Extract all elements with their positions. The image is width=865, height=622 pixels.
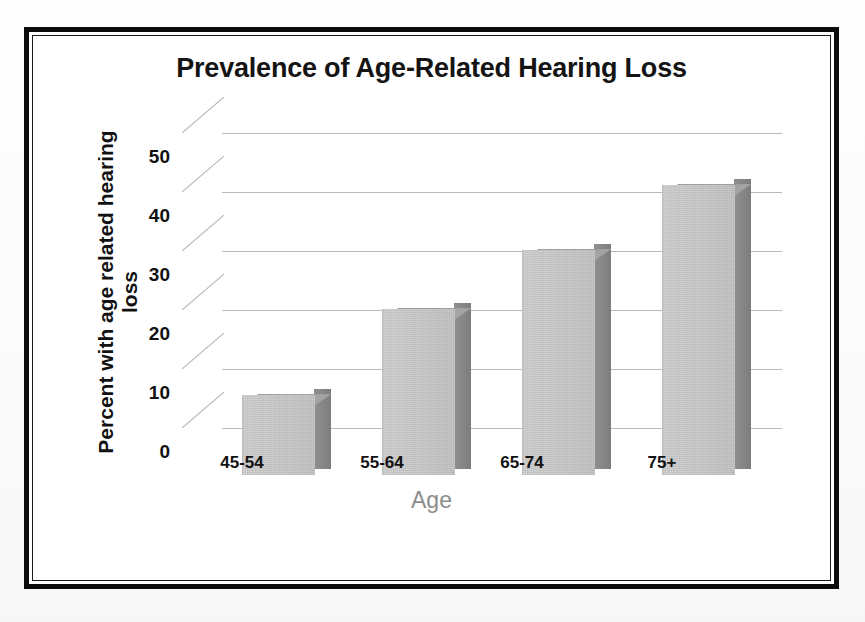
- bar-series: [222, 145, 782, 475]
- y-tick-10: 10: [110, 382, 170, 404]
- x-tick-55-64: 55-64: [322, 453, 442, 473]
- y-tick-50: 50: [110, 146, 170, 168]
- x-tick-45-54: 45-54: [182, 453, 302, 473]
- plot-area: 50 40 30 20 10 0: [182, 110, 782, 510]
- x-tick-75-plus: 75+: [602, 453, 722, 473]
- y-tick-40: 40: [110, 205, 170, 227]
- chart-title: Prevalence of Age-Related Hearing Loss: [32, 53, 831, 84]
- y-axis-title: Percent with age related hearing loss: [90, 127, 146, 457]
- y-tick-20: 20: [110, 323, 170, 345]
- x-axis-title: Age: [32, 487, 831, 514]
- x-tick-65-74: 65-74: [462, 453, 582, 473]
- y-axis-title-text: Percent with age related hearing loss: [90, 127, 146, 457]
- bar-chart: Prevalence of Age-Related Hearing Loss P…: [32, 35, 831, 581]
- gridline-50: [182, 125, 782, 126]
- y-tick-0: 0: [110, 441, 170, 463]
- y-tick-30: 30: [110, 264, 170, 286]
